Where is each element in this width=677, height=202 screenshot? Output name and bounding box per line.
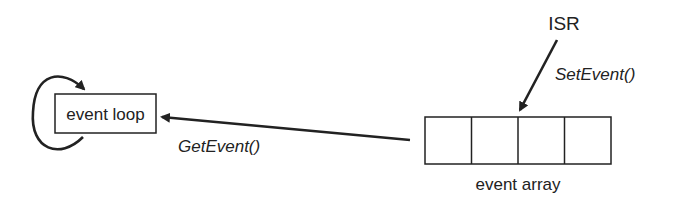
event-loop-node: event loop [55, 94, 156, 133]
isr-label: ISR [548, 13, 580, 34]
set-event-arrow [520, 40, 557, 110]
event-array-label: event array [475, 175, 561, 194]
event-array-node: event array [425, 117, 611, 194]
get-event-label: GetEvent() [178, 137, 260, 156]
event-loop-label: event loop [66, 105, 144, 124]
set-event-label: SetEvent() [555, 65, 635, 84]
event-diagram: event loop GetEvent() event array ISR Se… [0, 0, 677, 202]
